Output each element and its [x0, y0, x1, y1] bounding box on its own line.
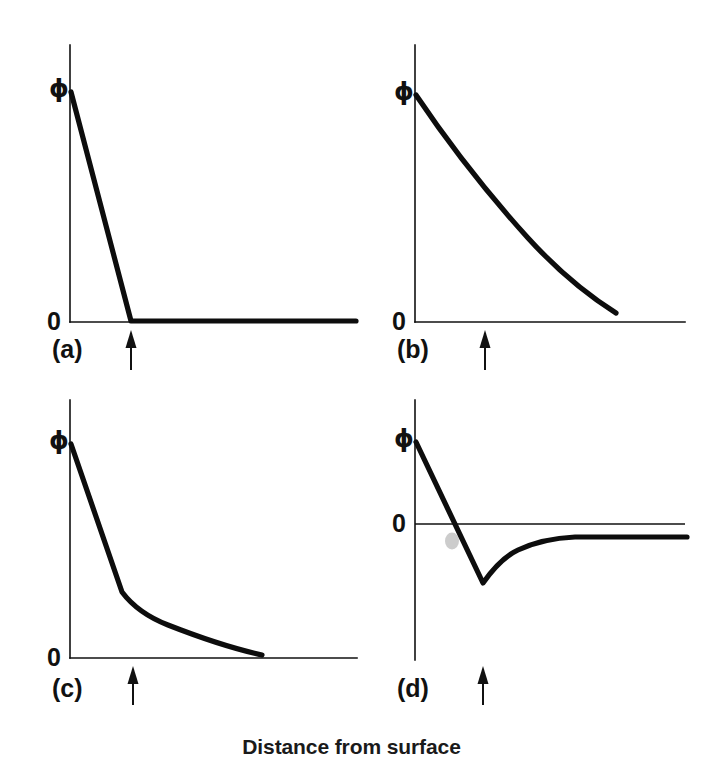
panel-d-label: (d)	[397, 676, 429, 701]
panel-d-curve	[416, 442, 687, 583]
panel-a-phi-label: ϕ	[49, 76, 69, 101]
panel-c-label: (c)	[52, 676, 83, 701]
panel-d-surface-arrow	[478, 666, 489, 705]
panel-c-surface-arrow	[128, 666, 139, 705]
panel-d-phi-label: ϕ	[394, 426, 414, 451]
panel-b-curve	[416, 95, 616, 313]
panel-a-zero-label: 0	[47, 309, 61, 334]
panel-d-zero-label: 0	[392, 511, 406, 536]
panel-d-smudge	[445, 533, 459, 550]
panel-c-curve	[71, 444, 262, 655]
panel-b-surface-arrow	[480, 330, 491, 370]
panel-c-zero-label: 0	[47, 645, 61, 670]
panel-b-label: (b)	[397, 337, 429, 362]
panel-a-surface-arrow	[126, 330, 137, 370]
panel-a-curve	[71, 92, 356, 321]
figure-container: ϕ 0 (a) ϕ 0 (b) ϕ 0 (c) ϕ 0	[0, 0, 703, 782]
panel-c-phi-label: ϕ	[49, 428, 69, 453]
panel-a-label: (a)	[52, 337, 83, 362]
panel-b-phi-label: ϕ	[394, 79, 414, 104]
x-axis-caption: Distance from surface	[0, 735, 703, 759]
panel-b-zero-label: 0	[392, 309, 406, 334]
